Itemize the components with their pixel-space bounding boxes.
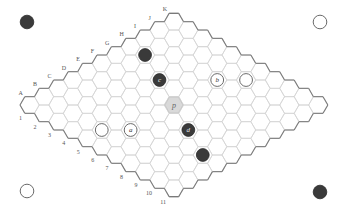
hex-cell-J4[interactable] (193, 47, 212, 64)
hex-cell-I4[interactable] (179, 55, 198, 72)
hex-cell-B8[interactable] (135, 147, 154, 164)
hex-cell-G9[interactable] (222, 113, 241, 130)
hex-cell-B10[interactable] (164, 163, 183, 180)
board-edge-segment (107, 155, 112, 163)
hex-cell-E2[interactable] (92, 72, 111, 89)
hex-cell-G3[interactable] (135, 63, 154, 80)
hex-cell-G10[interactable] (236, 122, 255, 139)
hex-cell-I8[interactable] (236, 88, 255, 105)
board-edge-segment (222, 163, 227, 171)
hex-cell-D3[interactable] (92, 88, 111, 105)
board-edge-segment (92, 147, 97, 155)
highlighted-cell: p (165, 97, 183, 113)
hex-cell-H6[interactable] (193, 80, 212, 97)
board-edge-segment (280, 72, 285, 80)
hex-cell-J3[interactable] (179, 38, 198, 55)
hex-cell-F4[interactable] (135, 80, 154, 97)
row-label-2: 2 (33, 124, 36, 130)
board-edge-segment (49, 122, 54, 130)
stone-label-b: b (215, 76, 219, 84)
board-edge-segment (150, 22, 155, 30)
hex-cell-H10[interactable] (251, 113, 270, 130)
row-label-5: 5 (77, 149, 80, 155)
board-edge-segment (49, 80, 54, 88)
board-edge-segment (265, 138, 270, 146)
hex-cell-J6[interactable] (222, 63, 241, 80)
hex-cell-D7[interactable] (150, 122, 169, 139)
column-label-E: E (76, 56, 80, 62)
hex-cell-G2[interactable] (121, 55, 140, 72)
board-edge-segment (236, 47, 241, 55)
hex-cell-I5[interactable] (193, 63, 212, 80)
board-edge-segment (34, 113, 39, 121)
board-edge-segment (135, 30, 140, 38)
hex-cell-H8[interactable] (222, 97, 241, 114)
board-edge-segment (34, 88, 39, 96)
hex-cell-G5[interactable] (164, 80, 183, 97)
column-label-G: G (105, 40, 110, 46)
hex-cell-B6[interactable] (107, 130, 126, 147)
hex-cell-J5[interactable] (208, 55, 227, 72)
board-edge-segment (309, 88, 314, 96)
column-label-J: J (148, 15, 151, 21)
hex-cell-D8[interactable] (164, 130, 183, 147)
hex-cell-F9[interactable] (208, 122, 227, 139)
row-label-11: 11 (160, 199, 166, 205)
hex-cell-H9[interactable] (236, 105, 255, 122)
board-edge-segment (280, 130, 285, 138)
hex-cell-C8[interactable] (150, 138, 169, 155)
hex-cell-C9[interactable] (164, 147, 183, 164)
corner-stone-bottom-right (313, 185, 327, 199)
hex-cell-D4[interactable] (107, 97, 126, 114)
hex-cell-E3[interactable] (107, 80, 126, 97)
board-edge-segment (164, 188, 169, 196)
hex-cell-D5[interactable] (121, 105, 140, 122)
hex-cell-C2[interactable] (63, 88, 82, 105)
hex-cell-I3[interactable] (164, 47, 183, 64)
hex-cell-I2[interactable] (150, 38, 169, 55)
hex-cell-F8[interactable] (193, 113, 212, 130)
hex-cell-E7[interactable] (164, 113, 183, 130)
hex-cell-D2[interactable] (78, 80, 97, 97)
hex-cell-B3[interactable] (63, 105, 82, 122)
hex-cell-H5[interactable] (179, 72, 198, 89)
hex-cell-F2[interactable] (107, 63, 126, 80)
hex-cell-B9[interactable] (150, 155, 169, 172)
hex-cell-H4[interactable] (164, 63, 183, 80)
hex-cell-I7[interactable] (222, 80, 241, 97)
board-edge-segment (78, 138, 83, 146)
hex-cell-D9[interactable] (179, 138, 198, 155)
hex-board-diagram: ABCDEFGHIJK1234567891011 p cdba (0, 0, 341, 217)
hex-cell-J2[interactable] (164, 30, 183, 47)
hex-cell-F10[interactable] (222, 130, 241, 147)
hex-cell-E10[interactable] (208, 138, 227, 155)
hex-cell-G8[interactable] (208, 105, 227, 122)
hex-cell-J9[interactable] (265, 88, 284, 105)
row-label-6: 6 (91, 157, 94, 163)
coordinate-labels: ABCDEFGHIJK1234567891011 (19, 6, 168, 204)
hex-cell-H3[interactable] (150, 55, 169, 72)
hex-cell-C10[interactable] (179, 155, 198, 172)
hex-cell-F3[interactable] (121, 72, 140, 89)
hex-cell-I9[interactable] (251, 97, 270, 114)
board-edge-segment (92, 55, 97, 63)
hex-cell-B2[interactable] (49, 97, 68, 114)
hex-cell-C4[interactable] (92, 105, 111, 122)
hex-cell-E4[interactable] (121, 88, 140, 105)
hex-board: ABCDEFGHIJK1234567891011 p cdba (0, 0, 341, 217)
hex-cell-J8[interactable] (251, 80, 270, 97)
hex-cell-C7[interactable] (135, 130, 154, 147)
hex-cell-B4[interactable] (78, 113, 97, 130)
hex-cell-E9[interactable] (193, 130, 212, 147)
hex-cell-E5[interactable] (135, 97, 154, 114)
hex-cell-C3[interactable] (78, 97, 97, 114)
hex-cell-G7[interactable] (193, 97, 212, 114)
board-edge-segment (208, 172, 213, 180)
hex-cell-B7[interactable] (121, 138, 140, 155)
hex-cell-I10[interactable] (265, 105, 284, 122)
hex-cell-D6[interactable] (135, 113, 154, 130)
hex-cell-J10[interactable] (280, 97, 299, 114)
hex-cell-H7[interactable] (208, 88, 227, 105)
hex-cell-C5[interactable] (107, 113, 126, 130)
board-edge-segment (236, 155, 241, 163)
